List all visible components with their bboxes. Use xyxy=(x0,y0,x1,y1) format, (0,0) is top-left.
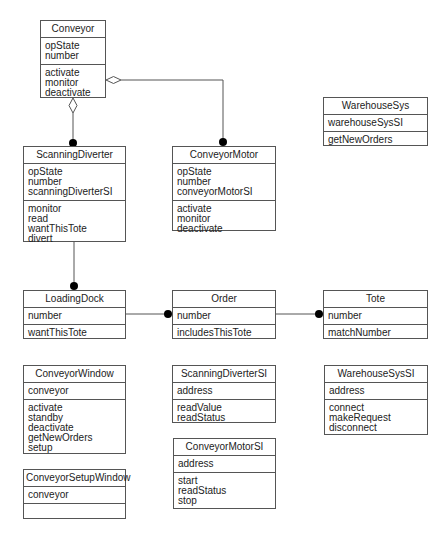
filled-dot-icon xyxy=(219,138,227,146)
operation: getNewOrders xyxy=(328,135,423,145)
class-scanningdivertersi: ScanningDiverterSI address readValue rea… xyxy=(172,365,276,423)
attribute: warehouseSysSI xyxy=(328,118,423,128)
attributes-section: number xyxy=(24,308,125,324)
operations-section: activate standby deactivate getNewOrders… xyxy=(24,399,125,456)
operation: wantThisTote xyxy=(28,328,121,338)
class-warehousesys: WarehouseSys warehouseSysSI getNewOrders xyxy=(323,97,428,146)
operation: setup xyxy=(28,443,121,453)
operations-section: monitor read wantThisTote divert xyxy=(24,200,125,247)
attribute: conveyor xyxy=(28,490,121,500)
attribute: number xyxy=(45,51,101,61)
operation: matchNumber xyxy=(328,328,423,338)
class-name: Conveyor xyxy=(41,21,105,38)
class-name: ConveyorMotor xyxy=(173,147,275,164)
class-conveyormotorsi: ConveyorMotorSI address start readStatus… xyxy=(173,438,276,509)
operations-section: activate monitor deactivate xyxy=(41,64,105,101)
class-name: Tote xyxy=(324,291,427,308)
class-tote: Tote number matchNumber xyxy=(323,290,428,339)
attribute: number xyxy=(28,311,121,321)
operations-section xyxy=(24,503,125,520)
class-scanningdiverter: ScanningDiverter opState number scanning… xyxy=(23,146,126,242)
attributes-section: conveyor xyxy=(24,487,125,503)
operations-section: readValue readStatus xyxy=(173,399,275,426)
operations-section: activate monitor deactivate xyxy=(173,200,275,237)
attributes-section: opState number scanningDiverterSI xyxy=(24,164,125,200)
class-conveyorsetupwindow: ConveyorSetupWindow conveyor xyxy=(23,469,126,519)
filled-dot-icon xyxy=(70,282,78,290)
class-name: ConveyorSetupWindow xyxy=(24,470,125,487)
class-name: Order xyxy=(173,291,275,308)
uml-class-diagram: Conveyor opState number activate monitor… xyxy=(0,0,448,534)
aggregation-conveyor-conveyormotor xyxy=(106,77,227,147)
operations-section: start readStatus stop xyxy=(174,472,275,509)
operation: divert xyxy=(28,234,121,244)
class-loadingdock: LoadingDock number wantThisTote xyxy=(23,290,126,339)
operation: deactivate xyxy=(45,88,101,98)
class-name: LoadingDock xyxy=(24,291,125,308)
operation: includesThisTote xyxy=(177,328,271,338)
class-name: ScanningDiverterSI xyxy=(173,366,275,383)
association-scanningdiverter-loadingdock xyxy=(70,242,78,290)
operation: readStatus xyxy=(177,413,271,423)
attribute: scanningDiverterSI xyxy=(28,187,121,197)
hollow-diamond-icon xyxy=(106,77,121,84)
attribute: conveyor xyxy=(28,386,121,396)
operations-section: includesThisTote xyxy=(173,324,275,341)
attribute: number xyxy=(177,311,271,321)
attributes-section: number xyxy=(173,308,275,324)
attribute: address xyxy=(177,386,271,396)
class-conveyorwindow: ConveyorWindow conveyor activate standby… xyxy=(23,365,126,454)
attributes-section: number xyxy=(324,308,427,324)
aggregation-conveyor-scanningdiverter xyxy=(69,98,77,147)
attributes-section: warehouseSysSI xyxy=(324,115,427,131)
class-warehousesyssi: WarehouseSysSI address connect makeReque… xyxy=(324,365,428,435)
operation: deactivate xyxy=(177,224,271,234)
operations-section: getNewOrders xyxy=(324,131,427,148)
operations-section: matchNumber xyxy=(324,324,427,341)
association-order-tote xyxy=(276,310,323,318)
operation: stop xyxy=(178,496,271,506)
attributes-section: opState number xyxy=(41,38,105,64)
class-conveyormotor: ConveyorMotor opState number conveyorMot… xyxy=(172,146,276,231)
class-name: ConveyorWindow xyxy=(24,366,125,383)
filled-dot-icon xyxy=(164,310,172,318)
class-name: ScanningDiverter xyxy=(24,147,125,164)
attributes-section: address xyxy=(325,383,427,399)
attribute: conveyorMotorSI xyxy=(177,187,271,197)
attributes-section: address xyxy=(173,383,275,399)
association-loadingdock-order xyxy=(126,310,172,318)
attributes-section: opState number conveyorMotorSI xyxy=(173,164,275,200)
class-order: Order number includesThisTote xyxy=(172,290,276,339)
filled-dot-icon xyxy=(315,310,323,318)
attributes-section: address xyxy=(174,456,275,472)
operations-section: wantThisTote xyxy=(24,324,125,341)
operation: disconnect xyxy=(329,423,423,433)
attribute: address xyxy=(329,386,423,396)
attributes-section: conveyor xyxy=(24,383,125,399)
class-name: WarehouseSys xyxy=(324,98,427,115)
attribute: address xyxy=(178,459,271,469)
class-conveyor: Conveyor opState number activate monitor… xyxy=(40,20,106,98)
class-name: WarehouseSysSI xyxy=(325,366,427,383)
class-name: ConveyorMotorSI xyxy=(174,439,275,456)
operations-section: connect makeRequest disconnect xyxy=(325,399,427,436)
attribute: number xyxy=(328,311,423,321)
